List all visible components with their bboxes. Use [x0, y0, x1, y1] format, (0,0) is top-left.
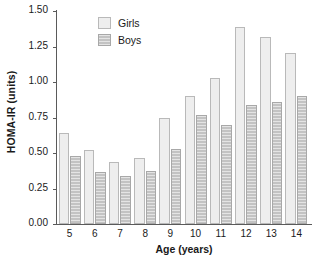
bar-boys-age-10: [196, 115, 207, 224]
legend-swatch-boys-icon: [98, 34, 111, 46]
chart-legend: Girls Boys: [98, 17, 141, 51]
bar-girls-age-6: [84, 150, 95, 224]
x-tick-label: 12: [232, 228, 260, 239]
chart-figure: HOMA-IR (units) 0.000.250.500.751.001.25…: [0, 0, 321, 262]
bar-group: [233, 11, 258, 224]
x-tick-label: 13: [257, 228, 285, 239]
y-axis-title: HOMA-IR (units): [0, 0, 22, 224]
bar-boys-age-9: [171, 149, 182, 224]
legend-swatch-girls-icon: [98, 17, 111, 29]
bar-girls-age-5: [59, 133, 70, 224]
x-axis-title: Age (years): [56, 243, 312, 255]
bar-group: [57, 11, 82, 224]
bar-group: [183, 11, 208, 224]
y-tick-label: 1.50: [29, 4, 48, 15]
bar-boys-age-13: [272, 102, 283, 224]
x-axis-spine: [56, 224, 312, 225]
x-tick-label: 9: [156, 228, 184, 239]
x-tick-label: 7: [106, 228, 134, 239]
bar-group: [259, 11, 284, 224]
x-tick-label: 8: [131, 228, 159, 239]
y-tick-label: 0.25: [29, 182, 48, 193]
y-tick-label: 0.75: [29, 111, 48, 122]
bar-boys-age-7: [120, 176, 131, 224]
x-tick-label: 5: [56, 228, 84, 239]
bar-boys-age-11: [221, 125, 232, 224]
bar-girls-age-11: [210, 78, 221, 224]
bar-girls-age-9: [159, 118, 170, 224]
bar-boys-age-12: [246, 105, 257, 224]
y-tick-label: 1.25: [29, 40, 48, 51]
y-axis-title-text: HOMA-IR (units): [5, 71, 17, 154]
legend-label-boys: Boys: [118, 34, 141, 46]
bar-group: [284, 11, 309, 224]
bar-girls-age-8: [134, 158, 145, 224]
y-tick-label: 0.50: [29, 146, 48, 157]
bar-girls-age-13: [260, 37, 271, 224]
bar-girls-age-14: [285, 53, 296, 224]
bar-girls-age-10: [185, 96, 196, 225]
x-tick-label: 14: [282, 228, 310, 239]
x-tick-label: 11: [207, 228, 235, 239]
x-tick-label: 10: [182, 228, 210, 239]
legend-label-girls: Girls: [118, 17, 140, 29]
bar-boys-age-8: [146, 171, 157, 224]
y-tick-label: 0.00: [29, 217, 48, 228]
legend-item-girls: Girls: [98, 17, 141, 29]
legend-item-boys: Boys: [98, 34, 141, 46]
bar-girls-age-12: [235, 27, 246, 224]
y-tick-label: 1.00: [29, 75, 48, 86]
bar-boys-age-6: [95, 172, 106, 224]
bar-girls-age-7: [109, 162, 120, 224]
bar-boys-age-5: [70, 156, 81, 224]
bar-boys-age-14: [297, 96, 308, 225]
bar-group: [158, 11, 183, 224]
plot-area: [57, 11, 309, 224]
x-tick-label: 6: [81, 228, 109, 239]
bar-group: [208, 11, 233, 224]
